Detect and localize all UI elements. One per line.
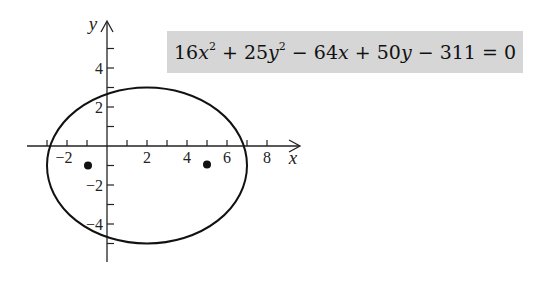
x-ticks [47,140,267,146]
eq-exp: 2 [209,40,216,53]
focus-point-left [84,162,92,170]
focus-point-right [203,161,211,169]
x-tick-label: 8 [263,149,271,166]
eq-op: − [286,41,314,63]
eq-exp: 2 [279,40,286,53]
y-tick-label: 2 [95,99,103,116]
eq-op: + [349,41,377,63]
eq-op: − [412,41,440,63]
eq-term: 16 [174,41,198,63]
eq-term: 50 [377,41,401,63]
eq-term: 0 [504,41,516,63]
equation-text: 16x2 + 25y2 − 64x + 50y − 311 = 0 [174,41,516,63]
x-tick-label: 4 [183,149,191,166]
x-tick-label: 6 [223,149,231,166]
eq-var: y [268,41,279,63]
eq-term: 311 [440,41,476,63]
y-tick-label: −2 [86,177,103,194]
eq-op: + [216,41,244,63]
y-tick-label: −4 [86,216,103,233]
y-tick-label: 4 [95,60,103,77]
eq-var: x [338,41,349,63]
y-axis-label: y [87,13,98,34]
eq-term: 25 [244,41,268,63]
eq-op: = [476,41,504,63]
eq-term: 64 [314,41,338,63]
eq-var: x [198,41,209,63]
x-tick-label: −2 [55,149,72,166]
eq-var: y [401,41,412,63]
x-axis-label: x [288,147,298,168]
x-tick-label: 2 [143,149,151,166]
equation-box: 16x2 + 25y2 − 64x + 50y − 311 = 0 [167,31,523,73]
